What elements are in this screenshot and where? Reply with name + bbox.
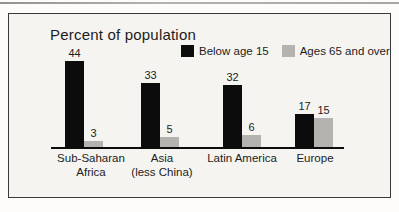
bar-below-age-15-latin-america [223,85,242,147]
page-rule-line [0,2,399,4]
value-label-ages-65-and-over-sub-saharan-africa: 3 [82,127,106,139]
bar-below-age-15-asia-less-china [141,83,160,147]
bar-ages-65-and-over-asia-less-china [160,137,179,147]
category-label-europe: Europe [260,151,370,165]
chart-frame: Percent of population Below age 15 Ages … [8,13,391,198]
value-label-ages-65-and-over-asia-less-china: 5 [158,123,182,135]
value-label-below-age-15-latin-america: 32 [221,71,245,83]
bar-ages-65-and-over-latin-america [242,135,261,147]
value-label-ages-65-and-over-europe: 15 [312,104,336,116]
scanned-figure: Percent of population Below age 15 Ages … [0,0,399,212]
plot-area: 4433353261715 Sub-SaharanAfricaAsia(less… [9,14,390,197]
value-label-ages-65-and-over-latin-america: 6 [240,121,264,133]
value-label-below-age-15-sub-saharan-africa: 44 [63,47,87,59]
bar-below-age-15-europe [295,114,314,147]
value-label-below-age-15-asia-less-china: 33 [139,69,163,81]
bar-ages-65-and-over-europe [314,118,333,147]
x-axis-baseline [51,147,344,149]
